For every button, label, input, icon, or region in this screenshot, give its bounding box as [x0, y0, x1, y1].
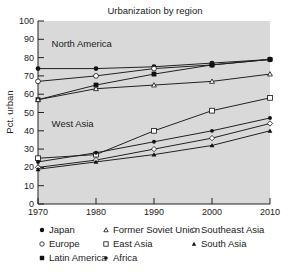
open-triangle-marker-icon [102, 226, 110, 234]
urbanization-line-chart: Urbanization by region 01020304050607080… [0, 0, 294, 224]
filled-triangle-marker-icon [190, 240, 198, 248]
data-point [36, 156, 41, 161]
filled-circle-marker-icon [38, 226, 46, 234]
x-tick-label: 1990 [144, 207, 164, 217]
open-circle-marker-icon [38, 240, 46, 248]
legend-item-south-asia: South Asia [190, 238, 246, 249]
legend-item-southeast-asia: Southeast Asia [190, 224, 264, 235]
x-tick-label: 2010 [260, 207, 280, 217]
x-tick-label: 2000 [202, 207, 222, 217]
data-point [210, 108, 215, 113]
y-tick-label: 20 [24, 162, 34, 172]
annotation-label: North America [52, 38, 113, 49]
data-point [268, 57, 273, 62]
legend-label: Africa [113, 252, 137, 263]
data-point [94, 66, 99, 71]
legend-label: Japan [49, 224, 75, 235]
open-square-marker-icon [102, 240, 110, 248]
y-tick-label: 50 [24, 108, 34, 118]
legend-item-east-asia: East Asia [102, 238, 153, 249]
data-point [152, 128, 157, 133]
data-point [36, 160, 40, 164]
y-tick-label: 70 [24, 71, 34, 81]
legend-label: Europe [49, 238, 80, 249]
data-point [210, 63, 215, 68]
x-tick-label: 1970 [28, 207, 48, 217]
y-axis-label: Pct. urban [4, 90, 15, 133]
legend-label: Latin America [49, 252, 107, 263]
legend-item-latin-america: Latin America [38, 252, 107, 263]
data-point [268, 95, 273, 100]
data-point [152, 140, 156, 144]
annotation-label: West Asia [52, 118, 95, 129]
x-tick-label: 1980 [86, 207, 106, 217]
y-tick-label: 80 [24, 53, 34, 63]
legend-item-japan: Japan [38, 224, 75, 235]
data-point [268, 116, 272, 120]
data-point [152, 66, 157, 71]
y-tick-label: 60 [24, 89, 34, 99]
open-diamond-marker-icon [190, 226, 198, 234]
legend-label: Southeast Asia [201, 224, 264, 235]
legend-item-europe: Europe [38, 238, 80, 249]
y-tick-label: 30 [24, 144, 34, 154]
legend-item-africa: Africa [102, 252, 137, 263]
data-point [36, 79, 41, 84]
data-point [36, 66, 41, 71]
legend: JapanFormer Soviet UnionSoutheast AsiaEu… [0, 224, 294, 274]
legend-label: South Asia [201, 238, 246, 249]
chart-title: Urbanization by region [107, 5, 202, 16]
data-point [94, 74, 99, 79]
filled-small-circle-marker-icon [102, 254, 110, 262]
legend-item-former-soviet-union: Former Soviet Union [102, 224, 200, 235]
y-tick-label: 10 [24, 181, 34, 191]
legend-label: Former Soviet Union [113, 224, 200, 235]
data-point [210, 129, 214, 133]
y-tick-label: 40 [24, 126, 34, 136]
filled-square-marker-icon [38, 254, 46, 262]
data-point [152, 72, 157, 77]
data-point [94, 151, 98, 155]
y-tick-label: 100 [19, 16, 34, 26]
y-tick-label: 90 [24, 34, 34, 44]
legend-label: East Asia [113, 238, 153, 249]
